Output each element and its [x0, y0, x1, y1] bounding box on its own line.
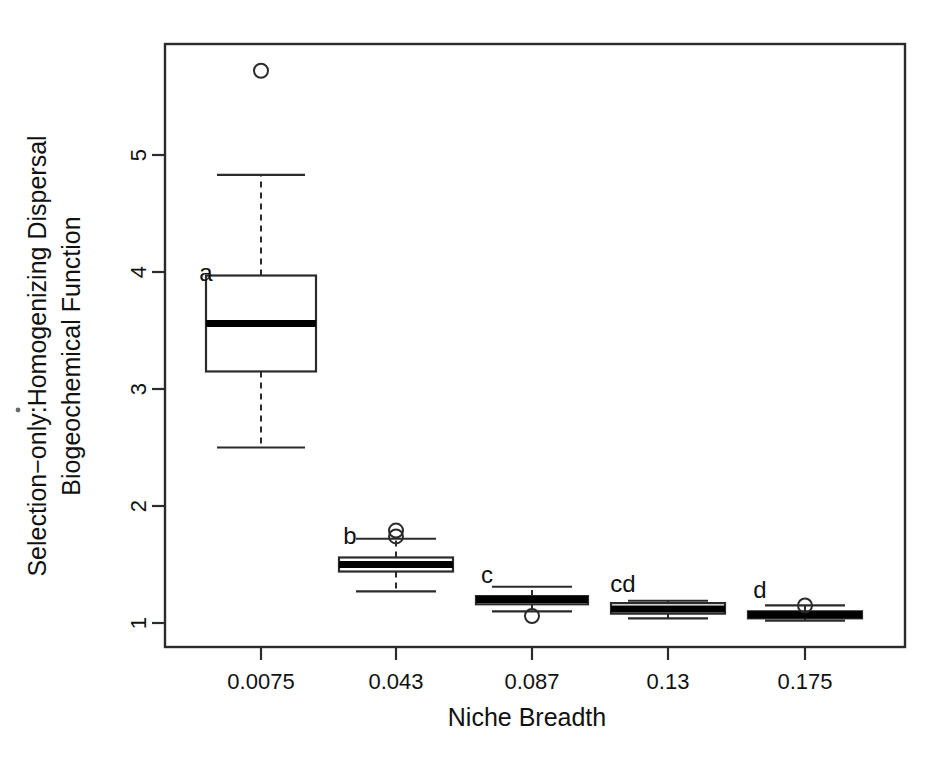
y-axis-title-line2: Biogeochemical Function [57, 216, 85, 495]
y-axis-title-line1: Selection−only:Homogenizing Dispersal [23, 135, 51, 576]
y-tick-label-5: 5 [126, 149, 151, 161]
x-tick-label-2: 0.087 [504, 669, 559, 694]
x-tick-label-0: 0.0075 [227, 669, 294, 694]
boxplot-group-0.0075[interactable] [206, 64, 316, 448]
boxplot-group-0.13[interactable] [611, 601, 725, 619]
x-tick-4: 0.175 [777, 647, 832, 694]
x-tick-0: 0.0075 [227, 647, 294, 694]
x-tick-1: 0.043 [368, 647, 423, 694]
y-tick-4: 4 [126, 266, 166, 278]
x-axis-title: Niche Breadth [448, 703, 606, 731]
y-tick-2: 2 [126, 500, 166, 512]
y-tick-5: 5 [126, 149, 166, 161]
y-axis: 5 4 3 2 1 [126, 149, 166, 629]
boxplot-series [206, 64, 862, 623]
group-letter-0.0075: a [199, 259, 213, 286]
outlier-point-0 [254, 64, 268, 78]
x-tick-label-3: 0.13 [647, 669, 690, 694]
y-tick-1: 1 [126, 617, 166, 629]
x-tick-label-1: 0.043 [368, 669, 423, 694]
group-letter-0.043: b [343, 522, 356, 549]
y-tick-label-4: 4 [126, 266, 151, 278]
x-axis: 0.0075 0.043 0.087 0.13 0.175 [227, 647, 832, 694]
y-tick-label-1: 1 [126, 617, 151, 629]
group-letter-0.175: d [753, 576, 766, 603]
chart-canvas: Selection−only:Homogenizing Dispersal Bi… [0, 0, 946, 763]
x-tick-2: 0.087 [504, 647, 559, 694]
boxplot-group-0.087[interactable] [476, 587, 588, 623]
group-letter-0.087: c [481, 561, 493, 588]
y-tick-label-2: 2 [126, 500, 151, 512]
group-letter-0.13: cd [610, 570, 635, 597]
x-tick-label-4: 0.175 [777, 669, 832, 694]
x-tick-3: 0.13 [647, 647, 690, 694]
y-tick-3: 3 [126, 383, 166, 395]
y-tick-label-3: 3 [126, 383, 151, 395]
scan-speck [16, 408, 21, 413]
boxplot-figure: Selection−only:Homogenizing Dispersal Bi… [0, 0, 946, 763]
